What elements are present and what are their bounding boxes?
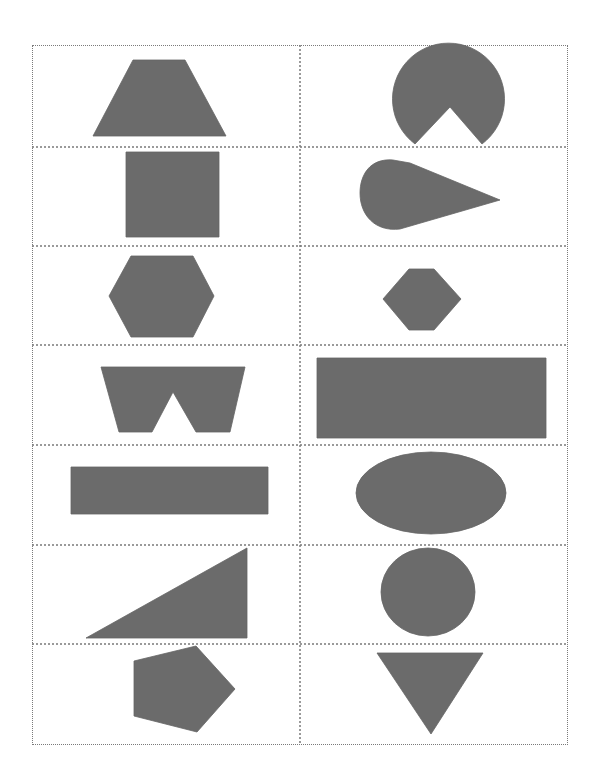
cell-r5-c1	[71, 467, 268, 514]
cell-r4-c2	[317, 358, 546, 438]
trapezoid-shape	[93, 60, 226, 136]
cell-r5-c2	[356, 452, 506, 534]
square-shape	[126, 152, 219, 237]
circle-with-wedge-cutout-shape	[393, 43, 505, 144]
cell-r1-c1	[93, 60, 226, 136]
right-triangle-shape	[86, 548, 247, 638]
cell-r7-c1	[134, 646, 235, 732]
cell-r2-c2	[360, 160, 500, 230]
hexagon-small-shape	[383, 269, 461, 330]
worksheet-canvas	[0, 0, 601, 782]
cell-r7-c2	[377, 653, 483, 734]
cell-r6-c2	[381, 548, 475, 636]
pentagon-shape	[134, 646, 235, 732]
cell-r4-c1	[101, 367, 245, 432]
inverted-triangle-shape	[377, 653, 483, 734]
hexagon-large-shape	[109, 256, 214, 337]
cell-r3-c1	[109, 256, 214, 337]
cell-r6-c1	[86, 548, 247, 638]
rectangle-wide-shape	[317, 358, 546, 438]
teardrop-shape	[360, 160, 500, 230]
circle-shape	[381, 548, 475, 636]
cell-r1-c2	[393, 43, 505, 144]
ellipse-shape	[356, 452, 506, 534]
cell-r3-c2	[383, 269, 461, 330]
cell-r2-c1	[126, 152, 219, 237]
rectangle-long-shape	[71, 467, 268, 514]
w-shape-notched-trapezoid-shape	[101, 367, 245, 432]
